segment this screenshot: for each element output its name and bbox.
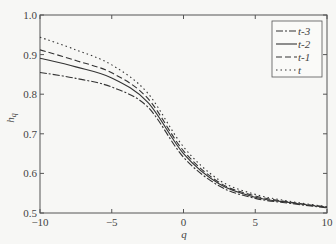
y-tick-label: 1.0 xyxy=(23,9,37,21)
x-axis-label: q xyxy=(181,228,187,240)
legend-label: t-1 xyxy=(298,51,310,63)
y-axis-label: hq xyxy=(4,113,18,123)
legend-box xyxy=(272,21,322,77)
curve-t-2 xyxy=(40,58,327,207)
curve-t-3 xyxy=(40,72,327,207)
y-tick-label: 0.9 xyxy=(23,49,37,61)
x-tick-label: 10 xyxy=(322,216,334,228)
legend-label: t-3 xyxy=(298,25,311,37)
legend-label: t-2 xyxy=(298,38,311,50)
x-tick-label: 5 xyxy=(253,216,259,228)
x-tick-label: −5 xyxy=(106,216,118,228)
y-tick-label: 0.8 xyxy=(23,88,37,100)
y-tick-label: 0.7 xyxy=(23,128,37,140)
y-tick-label: 0.6 xyxy=(23,167,37,179)
line-chart: −10−505100.50.60.70.80.91.0 q hq t-3t-2t… xyxy=(0,0,336,244)
x-tick-label: 0 xyxy=(181,216,187,228)
legend: t-3t-2t-1t xyxy=(272,21,322,77)
y-tick-label: 0.5 xyxy=(23,207,37,219)
